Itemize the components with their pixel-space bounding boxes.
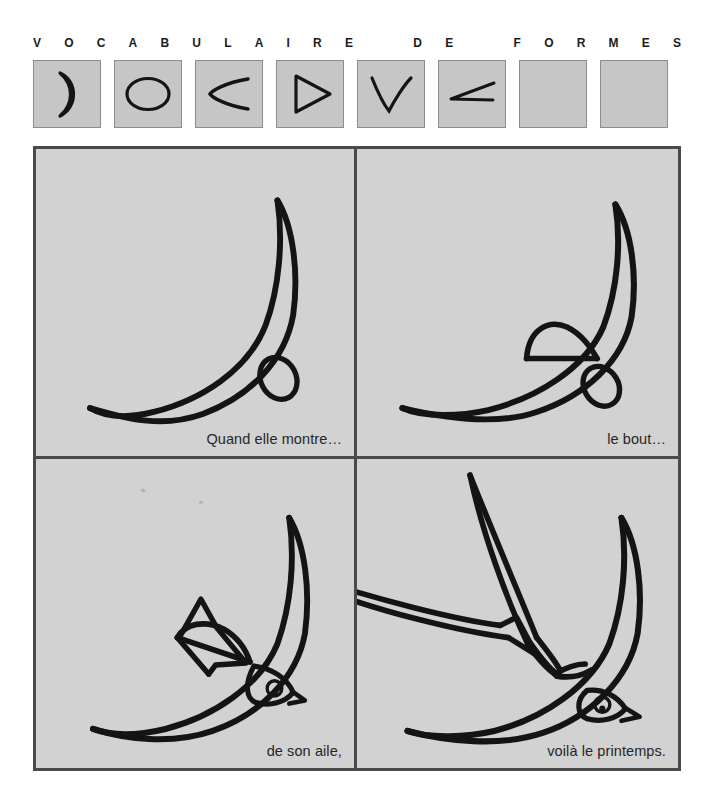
title-letter: F	[514, 37, 521, 49]
open-arc-left-shape-swatch[interactable]	[195, 60, 263, 128]
title-letter: B	[160, 37, 169, 49]
panel-2-artwork	[357, 149, 678, 456]
title-letter: R	[313, 37, 322, 49]
panel-3-artwork	[36, 459, 354, 769]
title-letter: O	[64, 37, 73, 49]
narrow-angle-shape-swatch[interactable]	[438, 60, 506, 128]
title-letter: M	[609, 37, 619, 49]
empty-swatch-7[interactable]	[519, 60, 587, 128]
panel-caption: Quand elle montre…	[206, 431, 342, 447]
comic-frame: Quand elle montre… le bout…	[33, 146, 681, 771]
title-letter: E	[642, 37, 650, 49]
title-letter: A	[255, 37, 264, 49]
comic-grid: Quand elle montre… le bout…	[36, 149, 678, 768]
panel-caption: voilà le printemps.	[547, 743, 666, 759]
panel-caption: de son aile,	[267, 743, 342, 759]
title-letter: V	[33, 37, 41, 49]
crescent-icon	[34, 61, 100, 127]
panel-1-artwork	[36, 149, 354, 456]
shape-palette	[33, 60, 681, 128]
ellipse-icon	[115, 61, 181, 127]
angle-icon	[439, 61, 505, 127]
vee-icon	[358, 61, 424, 127]
title-letter: L	[224, 37, 231, 49]
panel-4-artwork	[357, 459, 678, 769]
empty-swatch-8[interactable]	[600, 60, 668, 128]
title-letter: A	[129, 37, 138, 49]
title-letter: U	[192, 37, 201, 49]
arc-left-icon	[196, 61, 262, 127]
title-letter: R	[577, 37, 586, 49]
title-letter: O	[544, 37, 553, 49]
title-letter: C	[97, 37, 106, 49]
ellipse-shape-swatch[interactable]	[114, 60, 182, 128]
title-letter: S	[673, 37, 681, 49]
title-letter: E	[345, 37, 353, 49]
triangle-outline-shape-swatch[interactable]	[276, 60, 344, 128]
panel-step-3[interactable]: de son aile,	[36, 459, 357, 769]
title-letter: D	[413, 37, 422, 49]
triangle-icon	[277, 61, 343, 127]
panel-step-2[interactable]: le bout…	[357, 149, 678, 459]
title-letter: I	[287, 37, 290, 49]
page-title: V O C A B U L A I R E D E F O R M E S	[33, 33, 681, 53]
panel-step-1[interactable]: Quand elle montre…	[36, 149, 357, 459]
title-letter: E	[445, 37, 453, 49]
crescent-shape-swatch[interactable]	[33, 60, 101, 128]
v-stroke-shape-swatch[interactable]	[357, 60, 425, 128]
panel-caption: le bout…	[607, 431, 666, 447]
panel-step-4[interactable]: voilà le printemps.	[357, 459, 678, 769]
